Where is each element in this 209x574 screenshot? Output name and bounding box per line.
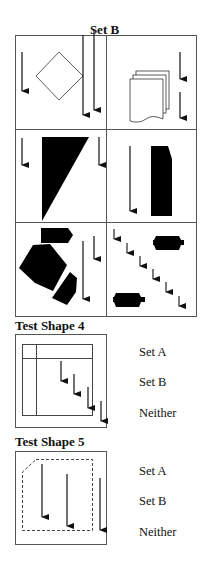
test-shape-4-title: Test Shape 4: [15, 318, 85, 334]
test-shape-5-option-set-a[interactable]: Set A: [139, 464, 166, 479]
test-shape-5-option-set-b[interactable]: Set B: [139, 494, 166, 509]
test-shape-5-figure: [16, 452, 107, 545]
cell-r1c2: [130, 52, 180, 122]
cell-r2c1: [22, 137, 99, 221]
cell-r3c1: [19, 228, 94, 305]
test-shape-4-option-set-a[interactable]: Set A: [139, 345, 166, 360]
test-shape-4-option-neither[interactable]: Neither: [139, 406, 176, 421]
cell-r2c2: [130, 146, 172, 216]
test-shape-5-title: Test Shape 5: [15, 434, 85, 450]
test-shape-4-figure: [16, 335, 107, 428]
test-shape-4-option-set-b[interactable]: Set B: [139, 375, 166, 390]
test-shape-5-option-neither[interactable]: Neither: [139, 525, 176, 540]
set-b-grid: [0, 0, 209, 574]
cell-r1c1: [22, 30, 94, 115]
cell-r3c2: [113, 229, 184, 307]
